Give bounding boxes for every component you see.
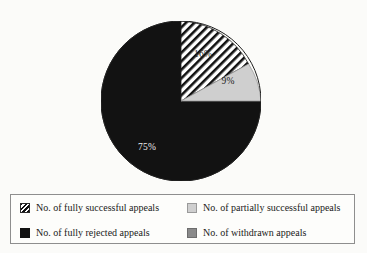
- pie-label-fully-rejected: 75%: [138, 142, 156, 152]
- legend-item-fully-rejected[interactable]: No. of fully rejected appeals: [11, 228, 182, 238]
- legend-item-fully-successful[interactable]: No. of fully successful appeals: [11, 203, 182, 213]
- black-swatch-icon: [20, 228, 30, 238]
- legend-item-partially-successful[interactable]: No. of partially successful appeals: [182, 203, 354, 213]
- light-gray-swatch-icon: [187, 203, 197, 213]
- pie-chart-svg: 16% 9% 75%: [101, 21, 261, 181]
- legend-label-fully-rejected: No. of fully rejected appeals: [36, 228, 150, 238]
- legend-item-withdrawn[interactable]: No. of withdrawn appeals: [182, 228, 354, 238]
- medium-gray-swatch-icon: [187, 228, 197, 238]
- legend-row: No. of fully successful appeals No. of p…: [11, 195, 354, 220]
- legend-row: No. of fully rejected appeals No. of wit…: [11, 220, 354, 245]
- legend-label-withdrawn: No. of withdrawn appeals: [203, 228, 306, 238]
- legend-label-fully-successful: No. of fully successful appeals: [36, 203, 159, 213]
- pie-label-fully-successful: 16%: [194, 49, 212, 59]
- pie-chart: 16% 9% 75%: [101, 21, 261, 181]
- chart-page: 16% 9% 75% No. of fully successful appea…: [0, 0, 367, 253]
- pie-label-partially-successful: 9%: [221, 76, 234, 86]
- chart-legend: No. of fully successful appeals No. of p…: [10, 194, 355, 244]
- legend-label-partially-successful: No. of partially successful appeals: [203, 203, 340, 213]
- hatched-swatch-icon: [20, 203, 30, 213]
